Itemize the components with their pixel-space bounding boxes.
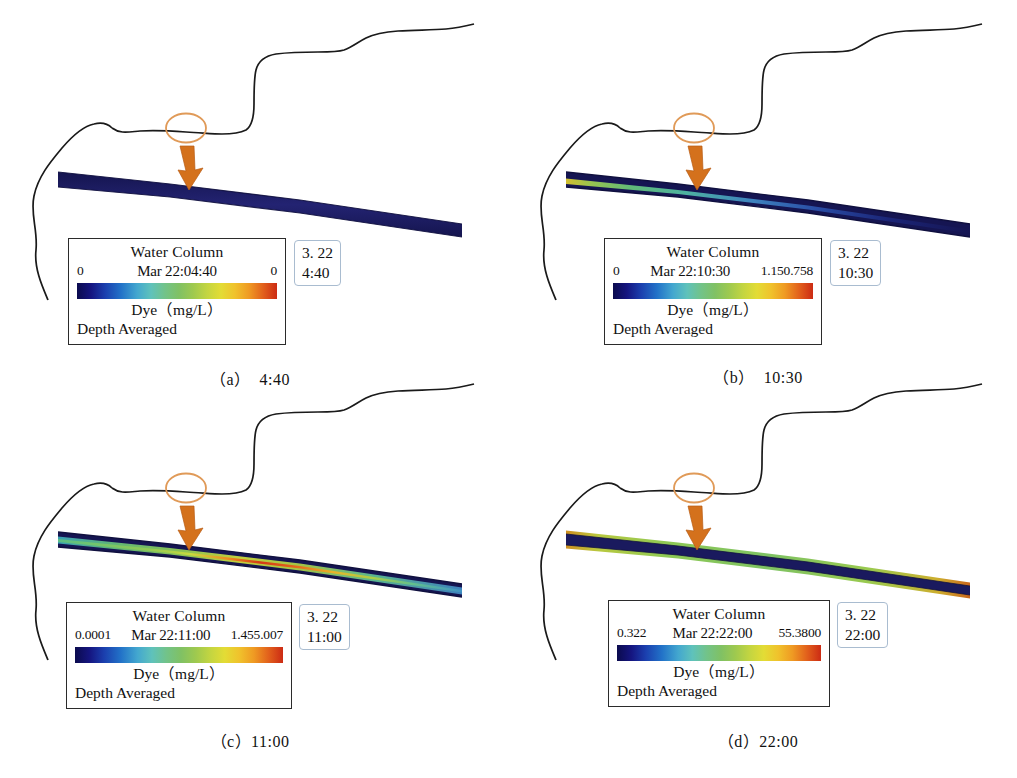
- legend-date-d: Mar 22:22:00: [673, 624, 753, 642]
- panel-b: Water Column 0 Mar 22:10:30 1.150.758 Dy…: [508, 0, 1008, 390]
- colorbar-d: [617, 645, 821, 661]
- colorbar-a: [77, 283, 277, 299]
- legend-quantity-a: Dye（mg/L）: [77, 301, 277, 320]
- discharge-arrow-icon: [178, 506, 203, 550]
- legend-quantity-c: Dye（mg/L）: [75, 665, 283, 684]
- legend-date-c: Mar 22:11:00: [131, 626, 210, 644]
- caption-d: （d）22:00: [508, 728, 1008, 752]
- legend-box-c: Water Column 0.0001 Mar 22:11:00 1.455.0…: [66, 602, 292, 709]
- legend-box-d: Water Column 0.322 Mar 22:22:00 55.3800 …: [608, 600, 830, 707]
- timechip-date-a: 3. 22: [302, 243, 333, 263]
- timechip-c: 3. 22 11:00: [299, 604, 350, 650]
- legend-box-a: Water Column 0 Mar 22:04:40 0 Dye（mg/L） …: [68, 238, 286, 345]
- legend-min-d: 0.322: [617, 625, 646, 641]
- panel-a: Water Column 0 Mar 22:04:40 0 Dye（mg/L） …: [0, 0, 500, 390]
- discharge-arrow-icon: [178, 146, 203, 190]
- timechip-time-d: 22:00: [845, 625, 880, 645]
- water-band-a: [58, 172, 462, 237]
- water-band-b: [566, 172, 970, 237]
- panel-d: Water Column 0.322 Mar 22:22:00 55.3800 …: [508, 360, 1008, 750]
- timechip-d: 3. 22 22:00: [837, 602, 888, 648]
- legend-title-d: Water Column: [617, 605, 821, 624]
- coastline-main: [620, 384, 982, 494]
- coastline-main: [112, 384, 474, 494]
- coastline-main: [112, 24, 474, 134]
- timechip-b: 3. 22 10:30: [830, 240, 881, 286]
- legend-quantity-d: Dye（mg/L）: [617, 663, 821, 682]
- timechip-date-c: 3. 22: [307, 607, 342, 627]
- legend-min-a: 0: [77, 263, 84, 279]
- discharge-location-circle: [166, 474, 206, 503]
- legend-title-b: Water Column: [613, 243, 813, 262]
- panel-c: Water Column 0.0001 Mar 22:11:00 1.455.0…: [0, 360, 500, 750]
- discharge-location-circle: [166, 114, 206, 143]
- legend-date-a: Mar 22:04:40: [137, 262, 217, 280]
- legend-box-b: Water Column 0 Mar 22:10:30 1.150.758 Dy…: [604, 238, 822, 345]
- legend-averaging-d: Depth Averaged: [617, 682, 821, 701]
- legend-averaging-a: Depth Averaged: [77, 320, 277, 339]
- legend-date-b: Mar 22:10:30: [650, 262, 730, 280]
- coastline-main: [620, 24, 982, 134]
- legend-title-c: Water Column: [75, 607, 283, 626]
- legend-quantity-b: Dye（mg/L）: [613, 301, 813, 320]
- timechip-time-a: 4:40: [302, 263, 333, 283]
- timechip-date-b: 3. 22: [838, 243, 873, 263]
- timechip-date-d: 3. 22: [845, 605, 880, 625]
- water-band-c: [58, 532, 462, 597]
- legend-max-a: 0: [270, 263, 277, 279]
- legend-min-c: 0.0001: [75, 627, 111, 643]
- legend-max-d: 55.3800: [779, 625, 821, 641]
- legend-max-c: 1.455.007: [231, 627, 283, 643]
- legend-min-b: 0: [613, 263, 620, 279]
- legend-title-a: Water Column: [77, 243, 277, 262]
- caption-c: （c）11:00: [0, 728, 500, 752]
- discharge-location-circle: [674, 114, 714, 143]
- discharge-location-circle: [674, 474, 714, 503]
- discharge-arrow-icon: [686, 506, 711, 550]
- legend-averaging-c: Depth Averaged: [75, 684, 283, 703]
- colorbar-b: [613, 283, 813, 299]
- legend-max-b: 1.150.758: [761, 263, 813, 279]
- timechip-time-c: 11:00: [307, 627, 342, 647]
- legend-averaging-b: Depth Averaged: [613, 320, 813, 339]
- colorbar-c: [75, 647, 283, 663]
- figure-root: Water Column 0 Mar 22:04:40 0 Dye（mg/L） …: [0, 0, 1017, 778]
- discharge-arrow-icon: [686, 146, 711, 190]
- water-band-d: [566, 531, 970, 599]
- timechip-time-b: 10:30: [838, 263, 873, 283]
- timechip-a: 3. 22 4:40: [294, 240, 341, 286]
